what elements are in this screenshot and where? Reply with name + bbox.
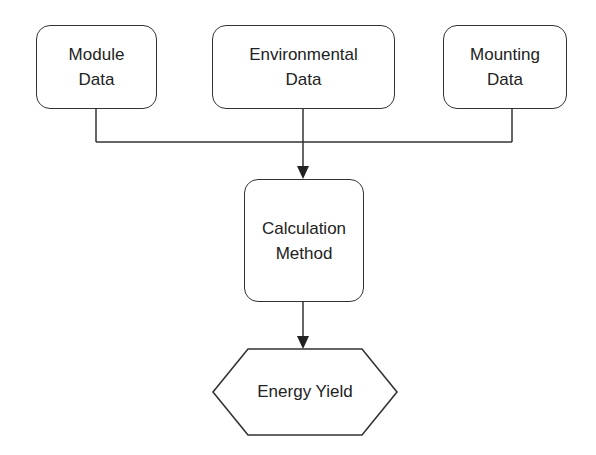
mounting-data-box: Mounting Data [443, 25, 567, 109]
module-data-line2: Data [69, 67, 125, 92]
calculation-method-line2: Method [262, 241, 346, 266]
environmental-data-line2: Data [249, 67, 358, 92]
mounting-data-line2: Data [470, 67, 540, 92]
calculation-method-box: Calculation Method [244, 179, 364, 302]
environmental-data-box: Environmental Data [212, 25, 395, 109]
module-data-box: Module Data [36, 25, 157, 109]
energy-yield-label: Energy Yield [213, 349, 397, 435]
mounting-data-line1: Mounting [470, 42, 540, 67]
calculation-method-line1: Calculation [262, 216, 346, 241]
environmental-data-line1: Environmental [249, 42, 358, 67]
arrowhead-to-energy-yield [297, 336, 309, 349]
module-data-line1: Module [69, 42, 125, 67]
arrowhead-to-calculation [297, 166, 309, 179]
